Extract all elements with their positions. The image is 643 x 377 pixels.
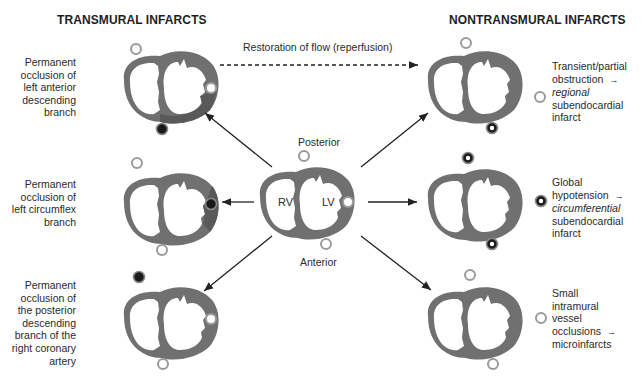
vessel-open-icon — [488, 359, 498, 369]
heart-lcx-occlusion — [124, 173, 219, 245]
vessel-open-icon — [206, 83, 216, 93]
lv-label: LV — [322, 196, 335, 208]
arrow-right-icon: → — [607, 327, 616, 337]
arrow-right-icon: → — [615, 191, 624, 201]
vessel-partial-icon — [536, 196, 547, 207]
vessel-open-icon — [158, 359, 168, 369]
vessel-open-icon — [343, 197, 353, 207]
heart-regional-subendocardial — [428, 51, 523, 123]
heart-circumferential-subendocardial — [428, 169, 523, 241]
label-lad: Permanent occlusion of left anterior des… — [0, 56, 76, 119]
vessel-open-icon — [131, 44, 141, 54]
infarct-diagram — [0, 0, 643, 377]
vessel-partial-icon — [487, 239, 498, 250]
vessel-open-icon — [299, 151, 309, 161]
label-microinfarcts: Small intramural vessel occlusions→ micr… — [552, 287, 616, 351]
label-regional-subendocardial: Transient/partial obstruction→ regional … — [552, 60, 627, 124]
vessel-open-icon — [157, 245, 167, 255]
vessel-occluded-icon — [134, 272, 145, 283]
heart-lad-occlusion — [124, 51, 219, 123]
vessel-occluded-icon — [206, 199, 217, 210]
arrow-right-icon: → — [609, 75, 618, 85]
label-pda: Permanent occlusion of the posterior des… — [0, 279, 76, 367]
heart-normal-center — [260, 167, 355, 239]
vessel-open-icon — [461, 38, 471, 48]
posterior-label: Posterior — [298, 136, 340, 148]
vessel-open-icon — [132, 158, 142, 168]
anterior-label: Anterior — [300, 256, 337, 268]
vessel-open-icon — [321, 239, 331, 249]
heart-microinfarcts — [428, 287, 523, 359]
heart-pda-occlusion — [124, 287, 219, 359]
vessel-open-icon — [465, 270, 475, 280]
vessel-partial-icon — [487, 123, 498, 134]
rv-label: RV — [278, 196, 293, 208]
vessel-open-icon — [536, 313, 546, 323]
vessel-open-icon — [206, 314, 216, 324]
vessel-occluded-icon — [157, 124, 168, 135]
label-lcx: Permanent occlusion of left circumflex b… — [0, 178, 76, 228]
vessel-partial-icon — [463, 153, 474, 164]
vessel-open-icon — [535, 92, 545, 102]
label-circumferential-subendocardial: Global hypotension→ circumferential sube… — [552, 176, 624, 240]
